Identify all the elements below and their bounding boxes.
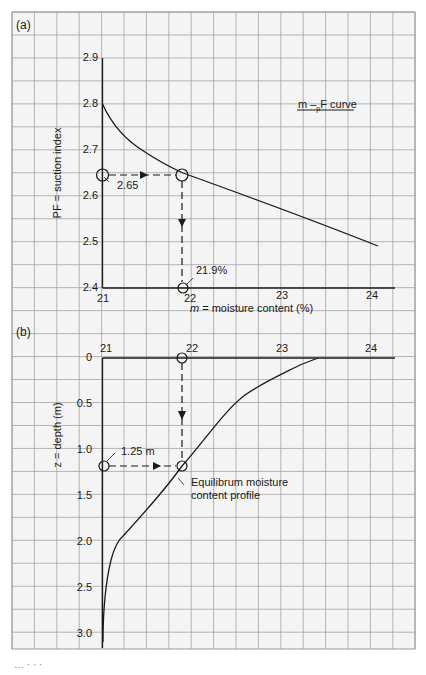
panel-a-label: (a) xyxy=(16,18,31,32)
a-xtick: 24 xyxy=(366,289,378,301)
b-xtick: 21 xyxy=(100,342,112,354)
caption-fragment: … · · · xyxy=(14,659,42,670)
a-ytick: 2.5 xyxy=(83,235,98,247)
b-ytick: 0 xyxy=(86,351,92,363)
b-ytick: 3.0 xyxy=(77,627,92,639)
b-ytick: 1.5 xyxy=(77,489,92,501)
chart-canvas: (a) (b) 2.9 2.8 2.7 2.6 2.5 2.4 21 22 23… xyxy=(0,0,426,675)
a-ytick: 2.6 xyxy=(83,189,98,201)
a-xtick: 23 xyxy=(276,289,288,301)
a-y-axis-title: PF = suction index xyxy=(51,127,63,218)
a-xtick: 21 xyxy=(97,292,109,304)
b-y-axis-title: z = depth (m) xyxy=(51,402,63,467)
a-x-axis-title: m = moisture content (%) xyxy=(190,302,313,314)
b-ytick: 0.5 xyxy=(77,397,92,409)
b-xtick: 22 xyxy=(186,342,198,354)
b-curve-label-line1: Equilibrum moisture xyxy=(191,476,288,488)
a-start-value: 2.65 xyxy=(117,179,138,191)
b-ytick: 2.5 xyxy=(77,581,92,593)
a-result-value: 21.9% xyxy=(196,264,227,276)
b-ytick: 1.0 xyxy=(77,443,92,455)
b-curve-label-line2: content profile xyxy=(191,489,260,501)
a-ytick: 2.7 xyxy=(83,143,98,155)
b-xtick: 23 xyxy=(276,342,288,354)
panel-b-label: (b) xyxy=(16,325,31,339)
b-start-value: 1.25 m xyxy=(121,445,155,457)
a-ytick: 2.9 xyxy=(83,51,98,63)
a-ytick: 2.8 xyxy=(83,97,98,109)
moisture-chart-figure: (a) (b) 2.9 2.8 2.7 2.6 2.5 2.4 21 22 23… xyxy=(0,0,426,675)
b-xtick: 24 xyxy=(365,342,377,354)
b-ytick: 2.0 xyxy=(77,535,92,547)
a-ytick: 2.4 xyxy=(83,281,98,293)
